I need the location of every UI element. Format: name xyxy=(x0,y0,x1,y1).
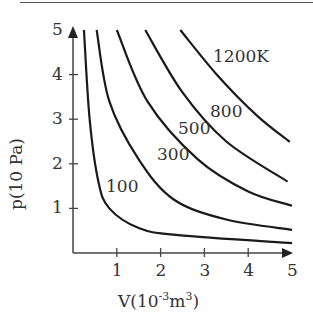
curve-label-1200k: 1200K xyxy=(213,48,269,65)
curve-label-100: 100 xyxy=(106,178,138,195)
y-tick-label: 2 xyxy=(52,155,63,172)
x-tick-label: 3 xyxy=(199,262,210,279)
y-axis-label-text: p(10 Pa) xyxy=(6,138,26,210)
y-tick-label: 1 xyxy=(52,199,63,216)
y-axis-arrow-icon xyxy=(68,26,78,38)
y-tick-label: 5 xyxy=(52,21,63,38)
y-tick-label: 4 xyxy=(52,66,63,83)
x-label-unit: m xyxy=(169,291,185,311)
x-label-exponent: -3 xyxy=(159,290,170,303)
curve-label-300: 300 xyxy=(157,146,189,163)
y-tick-label: 3 xyxy=(52,110,63,127)
x-label-prefix: V(10 xyxy=(118,291,159,311)
curve-label-800: 800 xyxy=(210,103,242,120)
x-tick-label: 1 xyxy=(112,262,123,279)
x-tick-label: 2 xyxy=(156,262,167,279)
curve-label-500: 500 xyxy=(178,120,210,137)
y-axis-label: p(10 Pa) xyxy=(6,138,26,210)
x-tick-label: 5 xyxy=(287,262,298,279)
x-label-close: ) xyxy=(192,291,199,311)
x-tick-label: 4 xyxy=(243,262,254,279)
x-axis-arrow-icon xyxy=(282,248,293,258)
x-axis-label: V(10-3m3) xyxy=(118,290,199,311)
